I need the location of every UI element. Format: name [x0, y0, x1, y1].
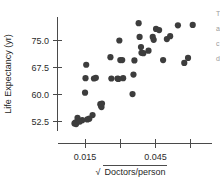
scatter-plot-figure: 52.560.067.575.0 0.0150.045 Life Expecta… [0, 0, 220, 185]
y-tick-label-group: 52.560.067.575.0 [31, 36, 49, 127]
data-point [136, 20, 142, 26]
data-point [108, 75, 114, 81]
x-axis-title: Doctors/person [104, 167, 165, 177]
data-point [167, 33, 173, 39]
data-point [82, 75, 88, 81]
x-axis-group: 0.0150.045 [58, 139, 212, 162]
y-tick-label-1: 60.0 [31, 90, 49, 100]
edge-text-fragment: a [216, 25, 220, 32]
data-point [99, 100, 105, 106]
data-point [138, 44, 144, 50]
edge-text-fragment: T [216, 10, 220, 17]
scatter-plot-svg: 52.560.067.575.0 0.0150.045 Life Expecta… [0, 0, 220, 185]
y-tick-label-3: 75.0 [31, 36, 49, 46]
data-point [107, 54, 113, 60]
data-point [119, 57, 125, 63]
x-tick-label-2: 0.045 [144, 152, 167, 162]
data-point [84, 116, 90, 122]
y-tick-label-0: 52.5 [31, 117, 49, 127]
data-point [83, 62, 89, 68]
data-point [130, 71, 136, 77]
data-point [129, 91, 135, 97]
data-point [89, 112, 95, 118]
y-tick-label-2: 67.5 [31, 63, 49, 73]
cropped-edge-text: Tacd [216, 10, 220, 62]
x-axis-title-group: √ Doctors/person [96, 166, 167, 178]
data-point [77, 118, 83, 124]
data-point [160, 57, 166, 63]
y-axis-group: 52.560.067.575.0 [31, 17, 62, 131]
data-point [185, 55, 191, 61]
data-point-group [71, 20, 195, 127]
data-point [145, 48, 151, 54]
data-point [93, 75, 99, 81]
x-tick-label-0: 0.015 [74, 152, 97, 162]
x-tick-label-group: 0.0150.045 [74, 152, 167, 162]
data-point [116, 37, 122, 43]
data-point [156, 27, 162, 33]
edge-text-fragment: d [216, 55, 220, 62]
y-axis-title: Life Expectancy (yr) [3, 34, 13, 114]
data-point [175, 22, 181, 28]
data-point [82, 90, 88, 96]
data-point [151, 37, 157, 43]
edge-text-fragment: c [216, 40, 220, 47]
data-point [190, 22, 196, 28]
x-axis-radical-symbol: √ [96, 167, 101, 177]
data-point [136, 34, 142, 40]
data-point [131, 57, 137, 63]
data-point [181, 60, 187, 66]
data-point [115, 76, 121, 82]
